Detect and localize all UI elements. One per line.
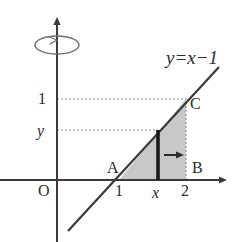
point-label-c: C xyxy=(190,96,201,112)
x-tick-label-variable-x: x xyxy=(152,185,159,201)
x-axis-arrowhead xyxy=(219,176,227,183)
y-axis-arrowhead xyxy=(53,17,60,25)
line-y-equals-x-minus-1 xyxy=(68,67,219,231)
math-figure: y=x−1 O 1 y 1 x 2 A B C xyxy=(0,0,239,242)
figure-canvas xyxy=(0,0,239,242)
x-tick-label-1: 1 xyxy=(115,183,123,199)
origin-label: O xyxy=(38,183,50,199)
rotation-arrow-icon xyxy=(49,37,57,44)
point-label-b: B xyxy=(192,160,203,176)
point-label-a: A xyxy=(107,160,119,176)
equation-label: y=x−1 xyxy=(166,48,218,67)
y-tick-label-1: 1 xyxy=(38,91,46,107)
x-tick-label-2: 2 xyxy=(181,183,189,199)
y-tick-label-variable-y: y xyxy=(37,123,44,139)
